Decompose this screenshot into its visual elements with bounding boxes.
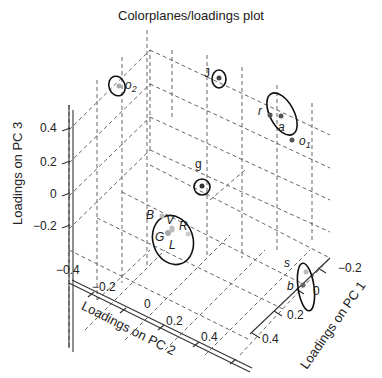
- point-B: [160, 214, 165, 219]
- pc2-tick-0.2: 0.2: [166, 314, 183, 328]
- grid-lines: [69, 30, 330, 355]
- point-o2: [117, 84, 122, 89]
- data-points: [117, 76, 309, 288]
- label-r: r: [258, 104, 262, 118]
- point-g: [200, 184, 205, 189]
- label-R: R: [179, 219, 188, 233]
- label-G: G: [155, 230, 164, 244]
- axis-lines: [62, 105, 330, 372]
- pc1-tick-neg0.2: −0.2: [338, 261, 362, 275]
- point-J: [217, 76, 222, 81]
- pc1-tick-0.4: 0.4: [262, 332, 279, 346]
- z-axis-label: Loadings on PC 3: [10, 122, 25, 225]
- pc2-tick-neg0.4: −0.4: [56, 263, 80, 277]
- pc2-tick-neg0.2: −0.2: [92, 280, 116, 294]
- point-L: [170, 228, 175, 233]
- point-o1: [290, 138, 295, 143]
- label-g: g: [195, 157, 202, 171]
- pc2-tick-0.4: 0.4: [201, 330, 218, 344]
- z-tick-neg0.2: −0.2: [33, 219, 57, 233]
- point-a: [279, 114, 284, 119]
- label-b: b: [287, 279, 294, 293]
- label-o2: o2: [125, 78, 137, 94]
- label-a: a: [278, 120, 285, 134]
- z-tick-0: 0: [50, 187, 57, 201]
- pc2-tick-0: 0: [144, 297, 151, 311]
- label-B: B: [146, 208, 154, 222]
- label-V: V: [166, 213, 174, 227]
- point-r: [268, 113, 273, 118]
- loadings-plot: Colorplanes/loadings plot: [0, 0, 382, 378]
- pc1-tick-0: 0: [313, 284, 320, 298]
- label-L: L: [169, 238, 176, 252]
- label-J: J: [204, 66, 210, 80]
- point-b: [301, 283, 306, 288]
- pc1-tick-0.2: 0.2: [287, 308, 304, 322]
- label-o1: o1: [299, 134, 311, 150]
- label-s: s: [284, 256, 290, 270]
- z-tick-0.4: 0.4: [40, 121, 57, 135]
- z-tick-0.2: 0.2: [40, 155, 57, 169]
- point-s: [304, 270, 309, 275]
